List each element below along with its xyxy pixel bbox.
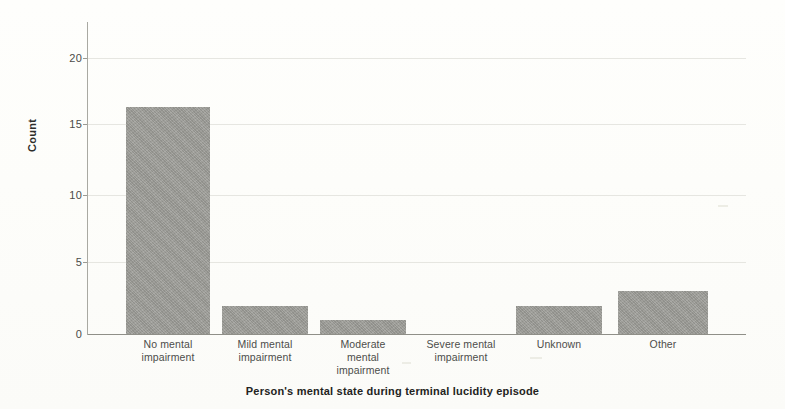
y-tick-label-10: 10: [52, 189, 82, 201]
y-tick-label-0: 0: [52, 328, 82, 340]
plot-area: [88, 22, 746, 334]
y-axis-title: Count: [26, 119, 38, 152]
chart-page: Count 20 15 10 5 0 No mental impairment …: [0, 0, 785, 409]
x-tick-line: impairment: [303, 364, 423, 377]
x-tick-line: Other: [603, 338, 723, 351]
x-tick-line: Unknown: [499, 338, 619, 351]
y-tick-label-15: 15: [52, 118, 82, 130]
x-tick-line: impairment: [401, 351, 521, 364]
y-tick-mark-20: [83, 58, 87, 59]
x-tick-label-other: Other: [603, 338, 723, 351]
bar-mild-mental-impairment[interactable]: [222, 306, 308, 334]
bar-unknown[interactable]: [516, 306, 602, 334]
x-axis-line: [88, 334, 746, 335]
x-axis-tick-labels: No mental impairment Mild mental impairm…: [88, 338, 746, 388]
y-tick-label-5: 5: [52, 256, 82, 268]
y-tick-mark-5: [83, 262, 87, 263]
y-tick-mark-10: [83, 195, 87, 196]
y-tick-mark-15: [83, 124, 87, 125]
y-tick-label-20: 20: [52, 52, 82, 64]
x-axis-title: Person's mental state during terminal lu…: [0, 385, 785, 397]
bar-other[interactable]: [618, 291, 708, 334]
bar-no-mental-impairment[interactable]: [126, 107, 210, 334]
y-axis-ticks: 20 15 10 5 0: [50, 0, 82, 409]
gridline-20: [88, 58, 746, 59]
x-tick-label-unknown: Unknown: [499, 338, 619, 351]
bar-moderate-mental-impairment[interactable]: [320, 320, 406, 334]
